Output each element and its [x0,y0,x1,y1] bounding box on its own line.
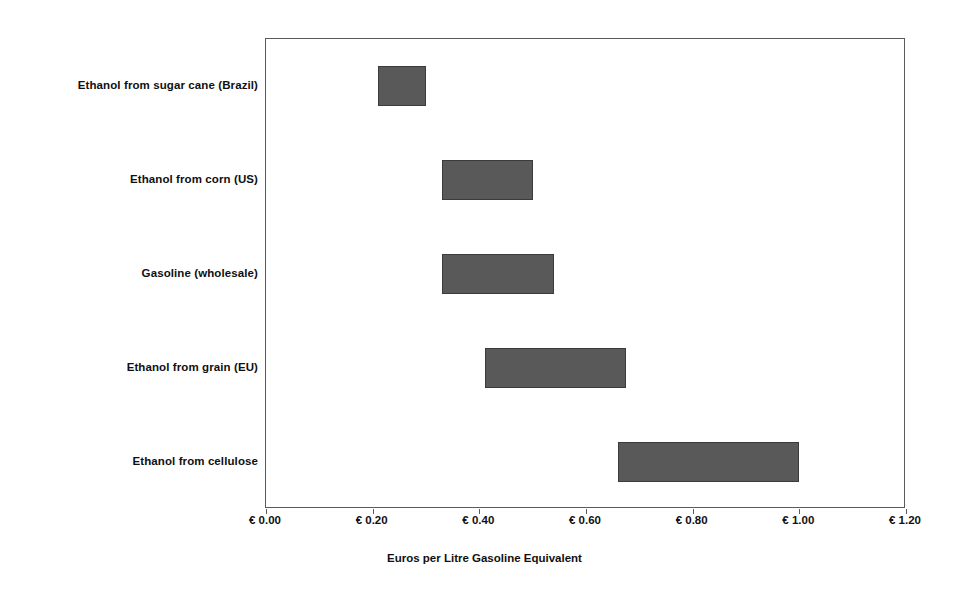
y-axis-category-labels: Ethanol from sugar cane (Brazil)Ethanol … [0,38,258,508]
range-bar [485,348,626,388]
category-label: Ethanol from cellulose [3,455,258,467]
x-axis-tick-label: € 0.00 [249,514,281,526]
category-label: Gasoline (wholesale) [3,267,258,279]
x-axis-tick-label: € 1.20 [889,514,921,526]
chart-container: Ethanol from sugar cane (Brazil)Ethanol … [0,0,969,594]
category-label: Ethanol from corn (US) [3,173,258,185]
x-axis-tick-label: € 1.00 [782,514,814,526]
x-axis-tick-label: € 0.60 [569,514,601,526]
range-bar [442,254,554,294]
x-axis-tick-label: € 0.40 [462,514,494,526]
x-axis-title: Euros per Litre Gasoline Equivalent [0,552,969,564]
plot-area [265,38,905,508]
range-bar [618,442,799,482]
range-bar [378,66,426,106]
x-axis-tick-label: € 0.20 [356,514,388,526]
category-label: Ethanol from grain (EU) [3,361,258,373]
x-axis-tick-label: € 0.80 [676,514,708,526]
category-label: Ethanol from sugar cane (Brazil) [3,79,258,91]
range-bar [442,160,533,200]
